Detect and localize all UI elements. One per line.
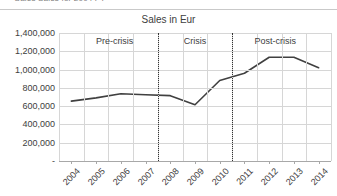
phase-label: Post-crisis [255, 36, 297, 46]
y-tick-label: 800,000 [22, 83, 55, 93]
clipped-header-strip: — Sales Sales for 2004 FY [0, 0, 337, 9]
gridline-vertical [207, 33, 208, 161]
x-tick-mark [294, 161, 295, 164]
gridline-horizontal [59, 33, 331, 34]
y-tick-label: 200,000 [22, 138, 55, 148]
gridline-horizontal [59, 88, 331, 89]
y-tick-label: 400,000 [22, 119, 55, 129]
x-tick-mark [319, 161, 320, 164]
x-tick-mark [71, 161, 72, 164]
x-tick-label: 2013 [284, 166, 305, 187]
x-tick-mark [146, 161, 147, 164]
x-tick-label: 2006 [111, 166, 132, 187]
x-tick-label: 2008 [160, 166, 181, 187]
gridline-vertical [108, 33, 109, 161]
y-tick-label: 1,400,000 [15, 28, 55, 38]
y-tick-label: 600,000 [22, 101, 55, 111]
x-tick-mark [96, 161, 97, 164]
gridline-vertical [306, 33, 307, 161]
y-tick-label: 1,200,000 [15, 46, 55, 56]
x-tick-mark [220, 161, 221, 164]
x-tick-label: 2005 [86, 166, 107, 187]
x-tick-label: 2012 [259, 166, 280, 187]
chart-title: Sales in Eur [0, 14, 337, 25]
x-tick-mark [244, 161, 245, 164]
gridline-horizontal [59, 51, 331, 52]
gridline-vertical [84, 33, 85, 161]
clipped-header-text: — Sales Sales for 2004 FY [4, 0, 106, 3]
x-tick-mark [121, 161, 122, 164]
y-tick-label: 1,000,000 [15, 65, 55, 75]
gridline-vertical [59, 33, 60, 161]
gridline-horizontal [59, 106, 331, 107]
x-tick-label: 2004 [61, 166, 82, 187]
gridline-vertical [133, 33, 134, 161]
y-tick-label: - [52, 156, 55, 166]
x-tick-mark [269, 161, 270, 164]
x-tick-label: 2011 [235, 166, 256, 187]
plot-area: -200,000400,000600,000800,0001,000,0001,… [59, 33, 331, 161]
gridline-horizontal [59, 70, 331, 71]
x-tick-label: 2009 [185, 166, 206, 187]
sales-line-chart: Sales in Eur -200,000400,000600,000800,0… [0, 10, 337, 196]
x-tick-label: 2010 [210, 166, 231, 187]
x-tick-label: 2014 [308, 166, 329, 187]
x-tick-mark [195, 161, 196, 164]
phase-label: Crisis [184, 36, 207, 46]
gridline-vertical [331, 33, 332, 161]
x-tick-label: 2007 [135, 166, 156, 187]
gridline-horizontal [59, 143, 331, 144]
x-tick-mark [170, 161, 171, 164]
phase-divider [232, 33, 233, 161]
gridline-horizontal [59, 124, 331, 125]
gridline-vertical [183, 33, 184, 161]
phase-divider [158, 33, 159, 161]
gridline-vertical [282, 33, 283, 161]
gridline-vertical [257, 33, 258, 161]
phase-label: Pre-crisis [96, 36, 134, 46]
